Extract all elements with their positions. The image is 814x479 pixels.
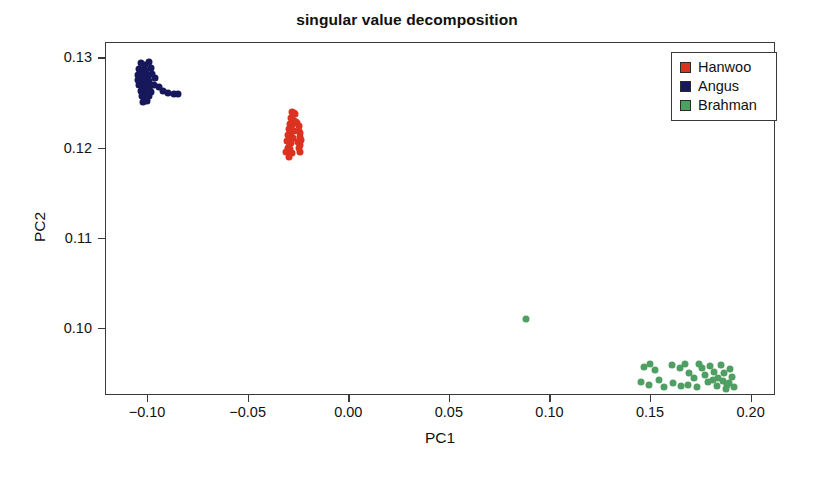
data-point xyxy=(696,360,703,367)
x-tick-label: 0.20 xyxy=(737,404,765,420)
data-point xyxy=(718,362,725,369)
x-tick-label: −0.10 xyxy=(129,404,166,420)
legend-item-label: Hanwoo xyxy=(698,60,751,75)
data-point xyxy=(701,372,708,379)
x-tick xyxy=(147,395,148,402)
y-tick xyxy=(98,148,105,149)
legend-item-label: Brahman xyxy=(698,98,757,113)
data-point xyxy=(678,383,685,390)
legend-swatch-icon xyxy=(680,62,691,73)
x-tick-label: 0.05 xyxy=(435,404,463,420)
x-tick xyxy=(650,395,651,402)
data-point xyxy=(722,385,729,392)
data-point xyxy=(681,361,688,368)
data-point xyxy=(143,97,150,104)
data-point xyxy=(731,383,738,390)
y-tick-label: 0.12 xyxy=(0,140,92,156)
x-tick xyxy=(248,395,249,402)
y-tick xyxy=(98,57,105,58)
x-tick-label: 0.10 xyxy=(535,404,563,420)
x-axis-label: PC1 xyxy=(105,429,775,447)
scatter-plot-figure: singular value decomposition PC1 PC2 Han… xyxy=(0,0,814,479)
data-point xyxy=(727,365,734,372)
data-point xyxy=(656,376,663,383)
page-title: singular value decomposition xyxy=(0,11,814,29)
data-point xyxy=(652,366,659,373)
legend-item-label: Angus xyxy=(698,79,739,94)
legend-item-hanwoo[interactable]: Hanwoo xyxy=(680,58,776,77)
x-tick xyxy=(751,395,752,402)
x-tick xyxy=(449,395,450,402)
data-point xyxy=(645,382,652,389)
legend: HanwooAngusBrahman xyxy=(671,52,777,121)
data-point xyxy=(296,149,303,156)
data-point xyxy=(661,383,668,390)
legend-swatch-icon xyxy=(680,81,691,92)
y-tick xyxy=(98,238,105,239)
y-tick xyxy=(98,328,105,329)
y-tick-label: 0.11 xyxy=(0,230,92,246)
y-axis-label: PC2 xyxy=(31,167,49,287)
x-tick-label: 0.00 xyxy=(334,404,362,420)
data-point xyxy=(715,374,722,381)
legend-swatch-icon xyxy=(680,100,691,111)
x-tick-label: 0.15 xyxy=(636,404,664,420)
data-point xyxy=(523,316,530,323)
data-point xyxy=(669,380,676,387)
data-point xyxy=(669,362,676,369)
x-tick-label: −0.05 xyxy=(229,404,266,420)
data-point xyxy=(694,383,701,390)
x-tick xyxy=(549,395,550,402)
y-tick-label: 0.10 xyxy=(0,320,92,336)
data-point xyxy=(174,90,181,97)
data-point xyxy=(638,379,645,386)
data-point xyxy=(286,153,293,160)
y-tick-label: 0.13 xyxy=(0,49,92,65)
data-point xyxy=(691,374,698,381)
x-tick xyxy=(348,395,349,402)
legend-item-brahman[interactable]: Brahman xyxy=(680,96,776,115)
legend-item-angus[interactable]: Angus xyxy=(680,77,776,96)
data-point xyxy=(685,382,692,389)
data-point xyxy=(713,383,720,390)
